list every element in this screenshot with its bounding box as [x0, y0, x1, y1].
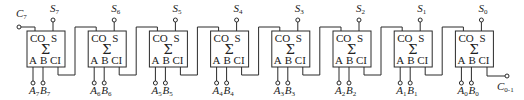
b-port-label: B	[162, 54, 169, 66]
a-input-label: A1	[395, 84, 407, 98]
full-adder-block: COSΣABCIS7A7B7	[27, 2, 96, 98]
sum-pin	[112, 18, 116, 22]
a-port-label: A	[396, 54, 404, 66]
full-adder-block: COSΣABCIS3A3B3	[272, 2, 341, 98]
sum-pin	[173, 18, 177, 22]
a-port-label: A	[213, 54, 221, 66]
a-port-label: A	[457, 54, 465, 66]
a-input-label: A4	[212, 84, 224, 98]
carry-out-pin	[17, 25, 21, 29]
s-port-label: S	[112, 32, 118, 44]
sum-output-label: S3	[295, 2, 305, 16]
b-input-label: B7	[40, 84, 51, 98]
carry-out-label: C7	[16, 7, 27, 21]
sum-pin	[357, 18, 361, 22]
sum-output-label: S2	[356, 2, 366, 16]
b-input-label: B1	[407, 84, 418, 98]
sum-output-label: S7	[50, 2, 60, 16]
b-input-label: B2	[346, 84, 357, 98]
b-port-label: B	[40, 54, 47, 66]
a-input-label: A7	[28, 84, 40, 98]
adder-chain: COSΣABCIS7A7B7COSΣABCIS6A6B6COSΣABCIS5A5…	[27, 2, 493, 98]
a-port-label: A	[29, 54, 37, 66]
s-port-label: S	[235, 32, 241, 44]
a-port-label: A	[274, 54, 282, 66]
b-port-label: B	[468, 54, 475, 66]
a-input-label: A5	[150, 84, 162, 98]
ci-port-label: CI	[111, 54, 122, 66]
sum-pin	[479, 18, 483, 22]
carry-in-label: C0-1	[497, 80, 514, 94]
ripple-carry-adder-diagram: C7 COSΣABCIS7A7B7COSΣABCIS6A6B6COSΣABCIS…	[0, 0, 524, 100]
sum-output-label: S1	[417, 2, 427, 16]
s-port-label: S	[173, 32, 179, 44]
b-input-label: B5	[162, 84, 173, 98]
b-port-label: B	[285, 54, 292, 66]
ci-port-label: CI	[234, 54, 245, 66]
ci-port-label: CI	[478, 54, 489, 66]
carry-out-wire	[21, 27, 35, 31]
b-port-label: B	[346, 54, 353, 66]
b-port-label: B	[101, 54, 108, 66]
full-adder-block: COSΣABCIS2A2B2	[333, 2, 402, 98]
a-port-label: A	[90, 54, 98, 66]
s-port-label: S	[418, 32, 424, 44]
sum-output-label: S0	[478, 2, 488, 16]
s-port-label: S	[357, 32, 363, 44]
sum-pin	[51, 18, 55, 22]
a-input-label: A2	[334, 84, 346, 98]
full-adder-block: COSΣABCIS5A5B5	[149, 2, 218, 98]
s-port-label: S	[479, 32, 485, 44]
a-input-label: A0	[456, 84, 468, 98]
a-port-label: A	[335, 54, 343, 66]
sum-pin	[418, 18, 422, 22]
full-adder-block: COSΣABCIS0A0B0	[455, 2, 493, 98]
a-port-label: A	[151, 54, 159, 66]
full-adder-block: COSΣABCIS6A6B6	[88, 2, 157, 98]
sum-pin	[296, 18, 300, 22]
ci-port-label: CI	[417, 54, 428, 66]
carry-out-terminal: C7	[16, 7, 35, 31]
b-port-label: B	[224, 54, 231, 66]
sum-pin	[235, 18, 239, 22]
sum-output-label: S4	[234, 2, 244, 16]
ci-port-label: CI	[50, 54, 61, 66]
full-adder-block: COSΣABCIS1A1B1	[394, 2, 463, 98]
s-port-label: S	[296, 32, 302, 44]
carry-in-pin	[505, 74, 509, 78]
a-input-label: A6	[89, 84, 101, 98]
ci-port-label: CI	[356, 54, 367, 66]
ci-port-label: CI	[295, 54, 306, 66]
carry-in-wire	[487, 67, 505, 76]
b-input-label: B0	[468, 84, 479, 98]
sum-output-label: S5	[172, 2, 182, 16]
ci-port-label: CI	[172, 54, 183, 66]
b-input-label: B3	[285, 84, 296, 98]
a-input-label: A3	[273, 84, 285, 98]
b-input-label: B4	[224, 84, 235, 98]
b-input-label: B6	[101, 84, 112, 98]
sum-output-label: S6	[111, 2, 121, 16]
s-port-label: S	[51, 32, 57, 44]
carry-in-terminal: C0-1	[487, 67, 514, 94]
b-port-label: B	[407, 54, 414, 66]
full-adder-block: COSΣABCIS4A4B4	[211, 2, 280, 98]
